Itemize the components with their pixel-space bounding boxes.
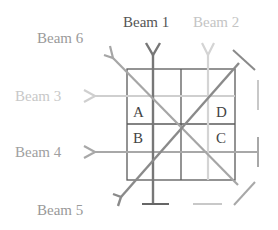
beam-6-label: Beam 6 — [37, 30, 84, 46]
beam-4-line — [84, 146, 258, 158]
cell-a-label: A — [133, 104, 144, 120]
beam-2-label: Beam 2 — [193, 14, 239, 30]
cell-c-label: C — [216, 130, 226, 146]
beam-5-label: Beam 5 — [37, 202, 83, 218]
cell-b-label: B — [133, 130, 143, 146]
beam-3-label: Beam 3 — [15, 88, 61, 104]
detectors — [142, 50, 258, 205]
beam-1-label: Beam 1 — [123, 14, 169, 30]
beam-4-label: Beam 4 — [15, 144, 62, 160]
cell-d-label: D — [216, 104, 227, 120]
beam-grid-diagram: Beam 1 Beam 2 Beam 6 Beam 3 Beam 4 Beam … — [0, 0, 278, 230]
